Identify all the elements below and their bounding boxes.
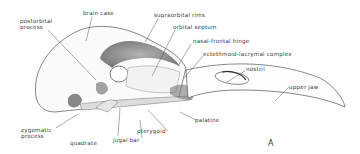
label-zygomatic-process: zygomatic process: [21, 127, 57, 139]
upper-jaw-shape: [186, 64, 345, 107]
label-quadrate: quadrate: [70, 140, 97, 146]
orbit-shape: [110, 66, 128, 82]
panel-letter: A: [268, 139, 273, 148]
skull-diagram: postorbital process brain case supraorbi…: [0, 0, 360, 154]
label-supraorbital-rims: supraorbital rims: [154, 12, 205, 18]
label-orbital-septum: orbital septum: [173, 24, 217, 30]
label-text: postorbital process: [20, 18, 58, 30]
label-brain-case: brain case: [83, 10, 114, 16]
label-jugal-bar: jugal bar: [113, 137, 140, 143]
label-text: zygomatic process: [21, 127, 57, 139]
label-palatine: palatine: [195, 117, 219, 123]
label-nasal-frontal-hinge: nasal-frontal hinge: [193, 38, 249, 44]
label-pterygoid: pterygoid: [137, 128, 166, 134]
label-nostril: nostril: [246, 66, 265, 72]
label-postorbital-process: postorbital process: [20, 18, 58, 30]
label-ectethmoid-lacrymal-complex: ectethmoid-lacrymal complex: [203, 51, 292, 57]
label-upper-jaw: upper jaw: [289, 84, 319, 90]
